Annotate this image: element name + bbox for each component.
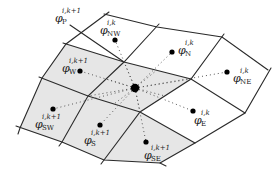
node-P [131,84,139,92]
node-N [169,49,174,54]
label-superscript: i,k [201,110,210,117]
label-subscript: NW [107,31,120,38]
label-W: φ i,k+1 W [62,63,70,74]
label-superscript: i,k [107,20,116,27]
label-S: φ i,k+1 S [84,135,92,146]
node-W [77,68,82,73]
label-superscript: i,k+1 [62,8,81,15]
label-N: φ i,k N [178,45,186,56]
label-SE: φ i,k+1 SE [144,150,152,161]
label-superscript: i,k+1 [91,130,110,137]
label-subscript: S [91,141,96,148]
label-subscript: NE [240,79,251,86]
label-subscript: SE [151,156,161,163]
node-SW [50,106,55,111]
label-subscript: E [201,121,206,128]
stencil-diagram [0,0,280,173]
label-superscript: i,k+1 [151,145,170,152]
node-SE [143,139,148,144]
label-subscript: N [185,51,191,58]
node-NE [224,69,229,74]
label-E: φ i,k E [194,115,202,126]
label-NE: φ i,k NE [233,73,241,84]
node-NW [112,37,117,42]
node-E [190,108,195,113]
label-P: φ i,k+1 P [55,13,63,24]
label-superscript: i,k+1 [42,114,61,121]
label-superscript: i,k+1 [69,58,88,65]
label-superscript: i,k [185,40,194,47]
label-superscript: i,k [240,68,249,75]
node-S [97,122,102,127]
label-subscript: SW [42,125,54,132]
label-subscript: P [62,19,67,26]
label-SW: φ i,k+1 SW [35,119,43,130]
label-NW: φ i,k NW [100,25,108,36]
label-subscript: W [69,69,76,76]
